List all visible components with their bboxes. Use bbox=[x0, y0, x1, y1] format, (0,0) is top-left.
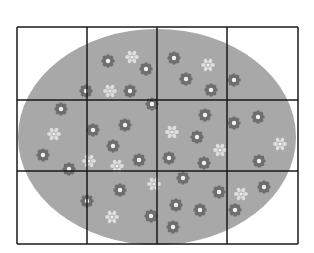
flower-icon bbox=[204, 83, 218, 97]
flower-icon bbox=[118, 118, 132, 132]
flower-icon bbox=[62, 162, 76, 176]
flower-icon bbox=[123, 84, 137, 98]
flower-icon bbox=[227, 73, 241, 87]
flower-icon bbox=[79, 84, 93, 98]
flower-icon bbox=[228, 203, 242, 217]
flower-icon bbox=[113, 183, 127, 197]
flower-icon bbox=[144, 209, 158, 223]
flower-icon bbox=[179, 72, 193, 86]
flower-icon bbox=[227, 116, 241, 130]
counting-grid-figure bbox=[0, 0, 314, 253]
flower-icon bbox=[169, 198, 183, 212]
flower-icon bbox=[212, 185, 226, 199]
flower-icon bbox=[132, 153, 146, 167]
flower-icon bbox=[257, 180, 271, 194]
flower-icon bbox=[198, 108, 212, 122]
flower-icon bbox=[54, 102, 68, 116]
flower-icon bbox=[193, 203, 207, 217]
flower-icon bbox=[101, 54, 115, 68]
flower-icon bbox=[176, 171, 190, 185]
flower-icon bbox=[252, 154, 266, 168]
flower-icon bbox=[106, 139, 120, 153]
flower-icon bbox=[197, 156, 211, 170]
flower-icon bbox=[166, 220, 180, 234]
flower-icon bbox=[162, 151, 176, 165]
flower-icon bbox=[251, 110, 265, 124]
flower-icon bbox=[86, 123, 100, 137]
flower-icon bbox=[139, 62, 153, 76]
flower-icon bbox=[167, 51, 181, 65]
flower-icon bbox=[190, 130, 204, 144]
flower-icon bbox=[36, 148, 50, 162]
